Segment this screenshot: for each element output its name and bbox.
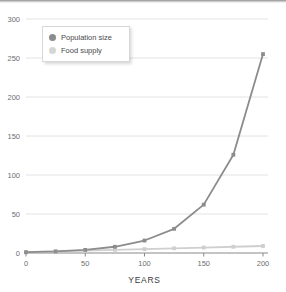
legend-swatch-population-size bbox=[49, 34, 56, 41]
x-tick-100: 100 bbox=[138, 259, 151, 268]
legend-item-population-size: Population size bbox=[49, 32, 123, 43]
chart-legend: Population size Food supply bbox=[42, 26, 130, 62]
x-tick-200: 200 bbox=[257, 259, 270, 268]
data-series-group bbox=[26, 54, 263, 252]
x-tick-0: 0 bbox=[24, 259, 28, 268]
legend-label-population-size: Population size bbox=[61, 34, 112, 42]
legend-swatch-food-supply bbox=[49, 47, 56, 54]
x-tick-50: 50 bbox=[81, 259, 89, 268]
data-markers-group bbox=[24, 52, 265, 254]
y-tick-50: 50 bbox=[12, 210, 20, 219]
y-tick-0: 0 bbox=[16, 249, 20, 258]
legend-item-food-supply: Food supply bbox=[49, 45, 123, 56]
x-axis-title: YEARS bbox=[128, 275, 160, 285]
x-axis-tick-labels: 050100150200 bbox=[24, 259, 269, 268]
legend-label-food-supply: Food supply bbox=[61, 47, 102, 55]
axis-lines-group bbox=[26, 253, 268, 257]
chart-container: 050100150200250300 050100150200 YEARS Po… bbox=[0, 0, 286, 292]
y-axis-tick-labels: 050100150200250300 bbox=[7, 15, 20, 258]
x-tick-150: 150 bbox=[197, 259, 210, 268]
y-tick-200: 200 bbox=[7, 93, 20, 102]
y-tick-100: 100 bbox=[7, 171, 20, 180]
y-tick-300: 300 bbox=[7, 15, 20, 24]
y-tick-150: 150 bbox=[7, 132, 20, 141]
y-tick-250: 250 bbox=[7, 54, 20, 63]
